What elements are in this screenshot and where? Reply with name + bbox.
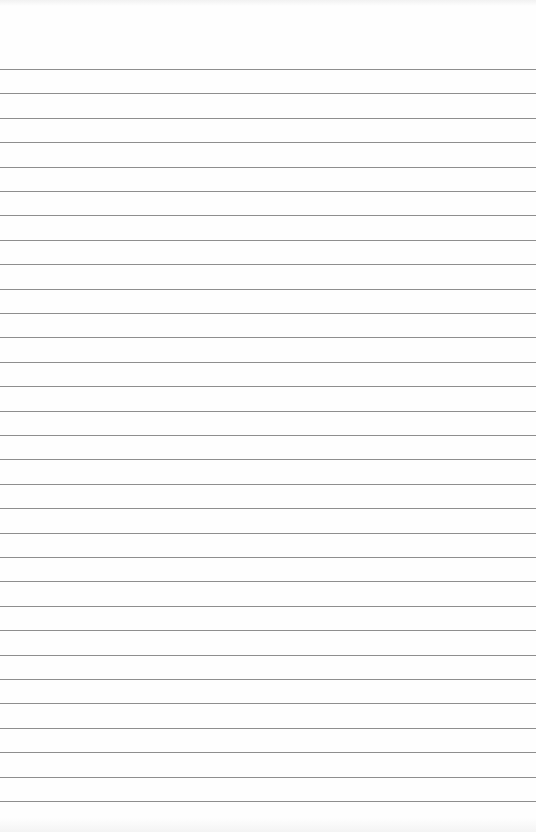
page-text	[0, 0, 536, 832]
lined-paper-page	[0, 0, 536, 832]
bottom-edge-shading	[0, 818, 536, 832]
